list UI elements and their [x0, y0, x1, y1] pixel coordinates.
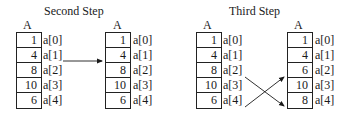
arrows-layer: [0, 0, 343, 127]
